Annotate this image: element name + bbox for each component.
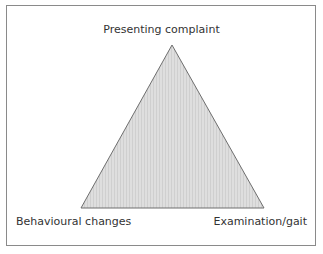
vertex-label-bottom-right: Examination/gait: [213, 215, 307, 228]
vertex-label-top: Presenting complaint: [0, 23, 323, 36]
vertex-label-bottom-left: Behavioural changes: [16, 215, 131, 228]
